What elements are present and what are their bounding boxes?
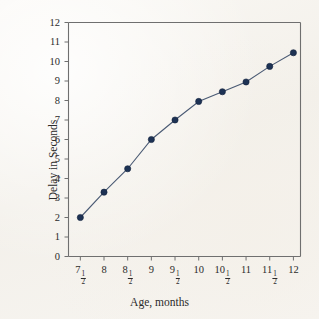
data-point-marker	[243, 79, 249, 85]
data-point-marker	[267, 63, 273, 69]
x-tick-label: 912	[170, 265, 180, 287]
data-point-marker	[77, 214, 83, 220]
y-tick-label: 0	[30, 251, 60, 262]
x-tick-label: 812	[123, 265, 133, 287]
data-point-marker	[290, 50, 296, 56]
x-tick-label: 8	[101, 265, 106, 276]
x-axis-title: Age, months	[0, 296, 319, 308]
x-tick-marks	[80, 257, 293, 261]
series-line-delay	[80, 53, 293, 218]
data-point-marker	[148, 136, 154, 142]
series-markers	[77, 50, 296, 221]
y-tick-label: 8	[30, 95, 60, 106]
x-tick-label: 1012	[215, 265, 231, 287]
chart-figure: 0123456789101112 71288129912101012111112…	[0, 0, 319, 319]
y-tick-label: 9	[30, 76, 60, 87]
data-point-marker	[196, 98, 202, 104]
x-tick-label: 712	[75, 265, 85, 287]
x-tick-label: 10	[193, 265, 204, 276]
x-tick-label: 11	[241, 265, 251, 276]
y-tick-label: 10	[30, 56, 60, 67]
x-tick-label: 9	[149, 265, 154, 276]
y-tick-label: 12	[30, 17, 60, 28]
x-tick-label: 12	[288, 265, 299, 276]
axes-group	[69, 23, 301, 257]
data-point-marker	[101, 189, 107, 195]
y-tick-label: 11	[30, 37, 60, 48]
x-tick-label: 1112	[262, 265, 277, 287]
y-tick-label: 2	[30, 212, 60, 223]
y-tick-label: 1	[30, 232, 60, 243]
data-point-marker	[219, 89, 225, 95]
data-point-marker	[172, 117, 178, 123]
data-point-marker	[125, 166, 131, 172]
y-axis-title: Delay in Seconds	[47, 119, 59, 199]
y-tick-marks	[65, 23, 69, 257]
